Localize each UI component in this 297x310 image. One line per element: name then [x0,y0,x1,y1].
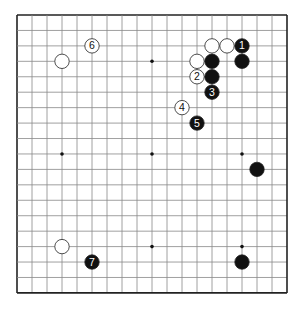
black-stone: 3 [205,85,219,99]
black-stone [235,54,249,68]
star-point [150,245,154,249]
white-stone: 4 [175,100,189,114]
black-stone [205,54,219,68]
white-stone [190,54,204,68]
white-stone: 6 [85,39,99,53]
black-stone: 1 [235,39,249,53]
white-stone [220,39,234,53]
black-stone [235,255,249,269]
move-number: 1 [239,39,245,51]
black-stone: 5 [190,116,204,130]
star-point [60,152,64,156]
white-stone [55,54,69,68]
black-stone [250,162,264,176]
star-point [150,60,154,64]
move-number: 5 [194,117,200,129]
star-point [150,152,154,156]
move-number: 6 [89,39,95,51]
go-board: 1234567 [0,0,297,310]
white-stone: 2 [190,70,204,84]
move-number: 2 [194,70,200,82]
move-number: 3 [209,86,215,98]
white-stone [55,239,69,253]
black-stone [205,70,219,84]
move-number: 7 [89,256,95,268]
black-stone: 7 [85,255,99,269]
move-number: 4 [179,101,185,113]
star-point [240,245,244,249]
star-point [240,152,244,156]
white-stone [205,39,219,53]
